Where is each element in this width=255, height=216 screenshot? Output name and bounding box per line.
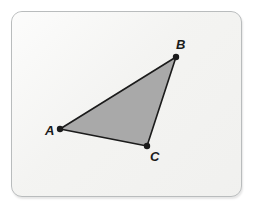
- triangle-diagram: [0, 0, 255, 216]
- triangle-shape: [60, 57, 176, 146]
- vertex-dot-b: [173, 54, 179, 60]
- vertex-label-b: B: [176, 38, 185, 51]
- figure-root: A B C: [0, 0, 255, 216]
- vertex-label-a: A: [45, 124, 54, 137]
- vertex-dot-a: [57, 126, 63, 132]
- vertex-label-c: C: [150, 150, 159, 163]
